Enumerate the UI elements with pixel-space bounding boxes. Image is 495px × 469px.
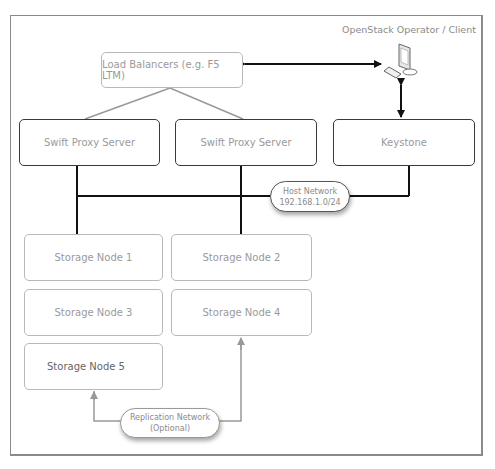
host-network-pill: Host Network 192.168.1.0/24	[270, 181, 350, 212]
host-network-title: Host Network	[283, 186, 337, 197]
storage-node-5-label: Storage Node 5	[47, 361, 125, 372]
storage-node-2[interactable]: Storage Node 2	[171, 234, 312, 281]
storage-node-2-label: Storage Node 2	[203, 252, 281, 263]
storage-node-1-label: Storage Node 1	[55, 252, 133, 263]
keystone-label: Keystone	[381, 137, 427, 148]
storage-node-3[interactable]: Storage Node 3	[24, 289, 163, 336]
replication-network-note: (Optional)	[150, 423, 190, 434]
computer-icon	[384, 44, 417, 78]
storage-node-5[interactable]: Storage Node 5	[24, 343, 163, 390]
swift-proxy-node-1[interactable]: Swift Proxy Server	[19, 119, 160, 166]
replication-network-title: Replication Network	[130, 412, 210, 423]
host-network-subnet: 192.168.1.0/24	[279, 197, 340, 208]
load-balancer-node[interactable]: Load Balancers (e.g. F5 LTM)	[101, 52, 243, 88]
load-balancer-label: Load Balancers (e.g. F5 LTM)	[102, 59, 242, 81]
storage-node-4-label: Storage Node 4	[203, 307, 281, 318]
storage-node-1[interactable]: Storage Node 1	[24, 234, 163, 281]
storage-node-3-label: Storage Node 3	[55, 307, 133, 318]
client-label: OpenStack Operator / Client	[342, 24, 476, 35]
swift-proxy-label-2: Swift Proxy Server	[200, 137, 291, 148]
swift-proxy-node-2[interactable]: Swift Proxy Server	[175, 119, 317, 166]
replication-network-pill: Replication Network (Optional)	[120, 408, 220, 438]
swift-proxy-label-1: Swift Proxy Server	[44, 137, 135, 148]
storage-node-4[interactable]: Storage Node 4	[171, 289, 312, 336]
keystone-node[interactable]: Keystone	[333, 119, 475, 166]
